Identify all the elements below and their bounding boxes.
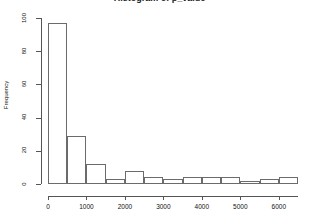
histogram-bar [202, 177, 221, 184]
x-axis-tick [48, 196, 49, 200]
y-axis-tick-label: 40 [21, 106, 27, 128]
x-axis-tick-label: 6000 [262, 203, 296, 210]
histogram-bar [106, 179, 125, 184]
y-axis-tick-label: 0 [21, 173, 27, 195]
histogram-bar [86, 164, 105, 184]
x-axis-tick [163, 196, 164, 200]
y-axis-tick [36, 118, 41, 119]
histogram-bar [279, 177, 298, 184]
y-axis-tick [36, 151, 41, 152]
histogram-bar [163, 179, 182, 184]
plot-area: 0204060801000100020003000400050006000 [0, 0, 319, 222]
x-axis-tick [125, 196, 126, 200]
histogram-bar [67, 136, 86, 184]
x-axis-tick-label: 1000 [69, 203, 103, 210]
histogram-bar [240, 181, 259, 184]
x-axis-tick [202, 196, 203, 200]
x-axis-tick-label: 0 [31, 203, 65, 210]
y-axis-tick-label: 100 [21, 7, 27, 29]
histogram-bar [260, 179, 279, 184]
y-axis-tick [36, 18, 41, 19]
x-axis-tick-label: 5000 [223, 203, 257, 210]
y-axis-tick [36, 51, 41, 52]
x-axis-tick-label: 2000 [108, 203, 142, 210]
y-axis-tick-label: 20 [21, 139, 27, 161]
histogram-plot: Histogram of p_value Frequency 020406080… [0, 0, 319, 222]
x-axis-tick [86, 196, 87, 200]
histogram-bar [125, 171, 144, 184]
x-axis-tick [240, 196, 241, 200]
x-axis-tick [279, 196, 280, 200]
x-axis-tick-label: 4000 [185, 203, 219, 210]
histogram-bar [144, 177, 163, 184]
histogram-bar [221, 177, 240, 184]
y-axis-tick [36, 84, 41, 85]
histogram-bar [48, 23, 67, 184]
y-axis-tick-label: 80 [21, 40, 27, 62]
histogram-bar [183, 177, 202, 184]
y-axis-tick [36, 184, 41, 185]
y-axis-tick-label: 60 [21, 73, 27, 95]
x-axis-tick-label: 3000 [146, 203, 180, 210]
